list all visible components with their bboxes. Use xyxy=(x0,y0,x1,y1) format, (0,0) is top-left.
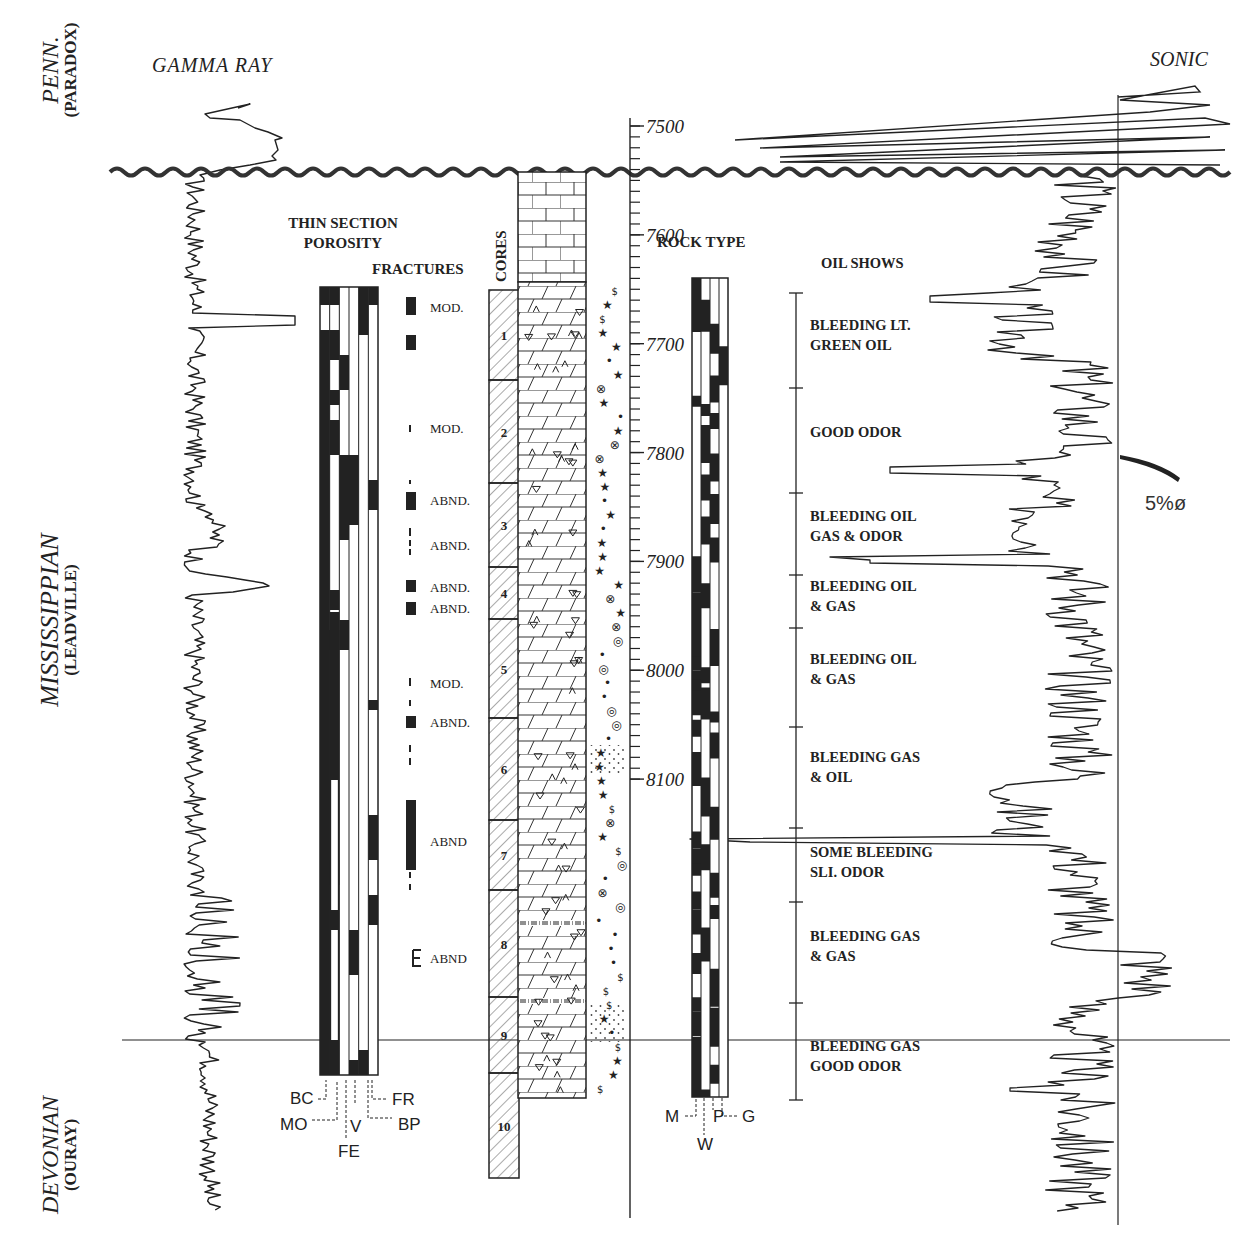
accessory-symbol: ★ xyxy=(613,578,624,592)
oil-show-description: & GAS xyxy=(810,598,856,614)
rock-type-fill xyxy=(701,667,710,683)
porosity-fill-block xyxy=(330,330,340,360)
rock-type-fill xyxy=(692,1079,701,1093)
rock-type-fill xyxy=(710,807,719,840)
accessory-symbol: • xyxy=(611,928,618,942)
fracture-mark xyxy=(409,480,411,484)
accessory-symbol: • xyxy=(602,872,609,886)
depth-label: 7800 xyxy=(646,443,685,464)
accessory-symbol: ★ xyxy=(599,1012,610,1026)
porosity-legend-mo: MO xyxy=(280,1115,307,1134)
fracture-mark xyxy=(406,602,416,615)
fracture-label: ABND. xyxy=(430,601,470,616)
porosity-legend-bc: BC xyxy=(290,1089,314,1108)
depth-label: 7600 xyxy=(646,225,685,246)
rock-type-fill xyxy=(701,475,710,501)
rock-type-fill xyxy=(710,905,719,919)
gamma-ray-header: GAMMA RAY xyxy=(152,54,273,76)
fracture-mark xyxy=(409,884,411,890)
porosity-legend-fe: FE xyxy=(338,1142,360,1161)
oil-show-description: BLEEDING GAS xyxy=(810,749,920,765)
porosity-fill-block xyxy=(368,700,378,710)
accessory-symbol: $ xyxy=(603,986,609,997)
accessory-symbol: ◎ xyxy=(611,718,621,732)
accessory-symbol: ★ xyxy=(605,508,616,522)
rock-type-fill xyxy=(692,1011,701,1036)
porosity-fill-block xyxy=(339,620,349,650)
core-number: 5 xyxy=(501,662,508,677)
core-number: 8 xyxy=(501,937,508,952)
fracture-mark xyxy=(406,335,416,350)
porosity-scale-arrow-icon xyxy=(1120,455,1180,482)
core-number: 1 xyxy=(501,328,508,343)
porosity-fill-block xyxy=(339,455,349,540)
oil-show-description: BLEEDING OIL xyxy=(810,651,917,667)
accessory-symbol: • xyxy=(595,914,602,928)
formation-name: PENN. xyxy=(37,36,63,104)
rock-type-fill xyxy=(710,629,719,666)
sonic-curve xyxy=(690,176,1172,1211)
accessory-symbol: ⊗ xyxy=(594,452,604,466)
accessory-symbol: ★ xyxy=(595,746,606,760)
porosity-fill-block xyxy=(359,303,369,335)
porosity-fill-block xyxy=(330,390,340,405)
accessory-symbol: • xyxy=(610,956,617,970)
formation-name: DEVONIAN xyxy=(37,1094,63,1215)
accessory-symbol: ⊗ xyxy=(610,438,620,452)
oil-show-description: BLEEDING OIL xyxy=(810,578,917,594)
porosity-fill-block xyxy=(368,287,378,305)
porosity-fill-block xyxy=(368,480,378,510)
rock-type-fill xyxy=(692,1037,701,1074)
rock-type-fill xyxy=(692,752,701,786)
unconformity-wavy-line xyxy=(110,169,1230,176)
fracture-mark xyxy=(409,540,411,546)
accessory-symbol: $ xyxy=(599,314,605,325)
accessory-symbol: ★ xyxy=(597,536,608,550)
rock-type-fill xyxy=(701,425,710,463)
fracture-label: ABND. xyxy=(430,580,470,595)
accessory-symbol: $ xyxy=(606,1000,612,1011)
porosity-fill-block xyxy=(320,287,330,305)
accessory-symbol: • xyxy=(605,732,612,746)
fracture-mark xyxy=(406,716,416,728)
accessory-symbol: • xyxy=(608,1026,615,1040)
core-number: 10 xyxy=(498,1119,511,1134)
rock-type-fill xyxy=(692,657,701,671)
rock-type-fill xyxy=(692,832,701,849)
fracture-mark xyxy=(409,872,411,878)
fractures-header: FRACTURES xyxy=(372,261,464,277)
fracture-label: MOD. xyxy=(430,300,464,315)
sonic-curve-penn xyxy=(735,86,1230,165)
porosity-fill-block xyxy=(359,1050,369,1075)
rock-type-fill xyxy=(692,997,701,1011)
rock-type-fill xyxy=(701,300,710,332)
rock-type-fill xyxy=(692,892,701,910)
fracture-label: MOD. xyxy=(430,421,464,436)
oil-show-description: BLEEDING LT. xyxy=(810,317,911,333)
accessory-symbol: • xyxy=(604,676,611,690)
accessory-symbol: ◎ xyxy=(617,858,627,872)
fracture-label: MOD. xyxy=(430,676,464,691)
rock-type-fill xyxy=(701,928,710,962)
accessory-symbol: ★ xyxy=(602,298,613,312)
well-log-diagram: $★$★★•★⊗★•★⊗⊗★★•★•★★★★⊗★⊗◎•◎••◎◎•★★★★$⊗★… xyxy=(0,0,1258,1249)
formation-label-penn: PENN.(PARADOX) xyxy=(37,22,80,117)
rock-type-fill xyxy=(701,688,710,720)
cores-header: CORES xyxy=(493,230,509,282)
gamma-ray-curve xyxy=(184,104,295,1210)
rock-type-fill xyxy=(692,679,701,690)
porosity-fill-block xyxy=(320,630,330,1075)
rock-type-fill xyxy=(692,602,701,638)
fracture-mark xyxy=(406,580,416,592)
accessory-symbol: ★ xyxy=(608,1068,619,1082)
accessory-symbol: $ xyxy=(617,972,623,983)
porosity-scale-label: 5%ø xyxy=(1145,492,1186,514)
well-log-canvas: $★$★★•★⊗★•★⊗⊗★★•★•★★★★⊗★⊗◎•◎••◎◎•★★★★$⊗★… xyxy=(0,0,1258,1249)
accessory-symbol: ⊗ xyxy=(611,620,621,634)
rock-type-fill xyxy=(701,517,710,545)
accessory-symbol: ◎ xyxy=(598,662,608,676)
fracture-mark xyxy=(409,425,411,432)
core-number: 9 xyxy=(501,1028,508,1043)
accessory-symbol: ★ xyxy=(599,396,610,410)
rock-type-fill xyxy=(701,404,710,416)
